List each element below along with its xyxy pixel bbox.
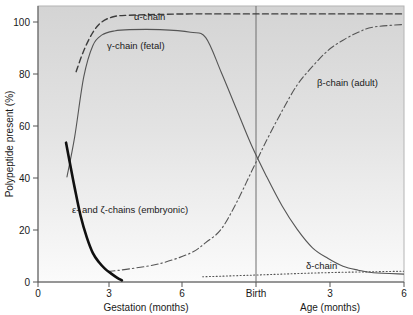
y-axis-tick-labels: 100 80 60 40 20 0 <box>13 17 30 288</box>
series-label-beta-chain: β-chain (adult) <box>317 77 378 88</box>
y-axis-ticks <box>33 22 38 282</box>
hemoglobin-chain-switching-chart: 100 80 60 40 20 0 Polypeptide present (%… <box>0 0 413 315</box>
x-axis-title-gestation: Gestation (months) <box>103 302 188 313</box>
series-label-gamma-chain: γ-chain (fetal) <box>107 40 165 51</box>
x-tick-label-age-6: 6 <box>401 288 407 299</box>
x-axis-ticks <box>38 282 404 287</box>
x-tick-label-gestation-6: 6 <box>179 288 185 299</box>
x-axis-title-age: Age (months) <box>300 302 360 313</box>
plot-background <box>38 6 404 282</box>
y-axis-title: Polypeptide present (%) <box>4 91 15 198</box>
x-tick-label-gestation-3: 3 <box>106 288 112 299</box>
y-tick-label-60: 60 <box>19 121 31 132</box>
x-tick-label-age-3: 3 <box>327 288 333 299</box>
x-tick-label-gestation-0: 0 <box>35 288 41 299</box>
x-axis-tick-labels: 0 3 6 Birth 3 6 <box>35 288 407 299</box>
y-tick-label-20: 20 <box>19 225 31 236</box>
series-label-alpha-chain: α-chain <box>134 11 165 22</box>
chart-figure: 100 80 60 40 20 0 Polypeptide present (%… <box>0 0 413 315</box>
y-tick-label-100: 100 <box>13 17 30 28</box>
y-tick-label-0: 0 <box>24 277 30 288</box>
x-tick-label-birth: Birth <box>246 288 267 299</box>
y-tick-label-40: 40 <box>19 173 31 184</box>
series-label-delta-chain: δ-chain <box>306 260 337 271</box>
series-label-epsilon-zeta-chains: ε- and ζ-chains (embryonic) <box>72 204 188 215</box>
y-tick-label-80: 80 <box>19 69 31 80</box>
